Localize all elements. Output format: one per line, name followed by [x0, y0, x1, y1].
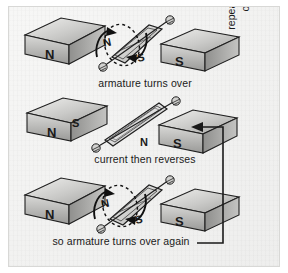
caption-panel-3: so armature turns over again [9, 235, 280, 247]
axle-terminal-lower-1 [99, 63, 107, 71]
right-magnet-s-2: S [159, 110, 237, 153]
axle-terminal-lower-2 [92, 144, 100, 152]
diagram-stage-3: N S [9, 171, 280, 243]
axle-terminal-upper-2 [172, 97, 180, 105]
armature-pole-n-1: N [102, 36, 112, 49]
right-magnet-label-1: S [175, 54, 184, 69]
axle-terminal-upper-3 [166, 176, 174, 184]
armature-pole-n-3: N [100, 197, 110, 210]
left-magnet-label-1: N [45, 47, 54, 62]
right-magnet-label-3: S [175, 214, 184, 229]
loop-label-line-1: repeated over and [224, 6, 238, 47]
armature-pole-n-2: N [140, 136, 148, 148]
figure-frame: N S [8, 6, 280, 267]
feedback-loop-label: repeated over and over again [224, 6, 258, 47]
left-magnet-label-3: N [45, 207, 54, 222]
left-magnet-n-2: N [27, 98, 107, 141]
left-magnet-n-1: N [25, 18, 105, 64]
axle-terminal-upper-1 [166, 16, 174, 24]
left-magnet-label-2: N [47, 125, 56, 140]
right-magnet-label-2: S [173, 136, 182, 151]
armature-pole-s-2: S [72, 117, 79, 129]
left-magnet-n-3: N [25, 178, 105, 224]
panel-current-reverses: N S [9, 95, 280, 175]
axle-terminal-lower-3 [97, 225, 105, 233]
caption-panel-1: armature turns over [9, 77, 280, 89]
panel-armature-turns-again: N S [9, 171, 280, 263]
caption-panel-2: current then reverses [9, 153, 280, 165]
loop-label-line-2: over again [238, 6, 252, 47]
right-magnet-s-3: S [161, 189, 239, 231]
